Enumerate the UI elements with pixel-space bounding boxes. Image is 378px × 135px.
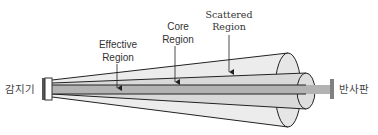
- effective-region-label-line2: Region: [102, 52, 134, 63]
- scattered-region-label-line2: Region: [212, 21, 246, 32]
- core-rod: [52, 85, 331, 94]
- core-region-label-line2: Region: [162, 34, 194, 45]
- detector: [42, 78, 52, 100]
- beam-region-diagram: 감지기 반사판 Effective Region Core Region Sca…: [0, 0, 378, 135]
- reflector: [330, 79, 334, 99]
- reflector-label: 반사판: [339, 83, 369, 95]
- detector-label: 감지기: [5, 83, 35, 95]
- core-region: [52, 85, 331, 94]
- detector-body: [45, 78, 52, 100]
- scattered-region-label-line1: Scattered: [206, 9, 253, 20]
- effective-region-label-line1: Effective: [99, 39, 138, 50]
- core-region-label-line1: Core: [167, 21, 189, 32]
